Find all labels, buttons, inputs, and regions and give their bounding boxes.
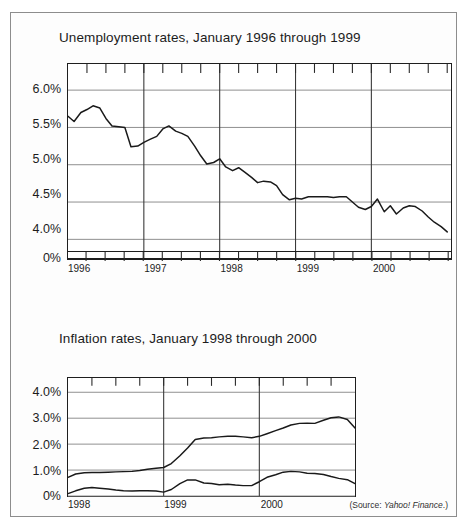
x-tick-label: 1998	[68, 499, 90, 510]
source-prefix: (Source:	[349, 500, 384, 510]
unemployment-x-axis-labels: 19961997199819992000	[67, 263, 452, 279]
y-tick-label: 4.0%	[33, 222, 62, 236]
x-tick-label: 1999	[297, 263, 319, 274]
inflation-x-axis-labels: 199819992000	[67, 499, 356, 515]
inflation-plot-area	[67, 377, 356, 497]
x-tick-label: 1999	[164, 499, 186, 510]
source-name: Yahoo! Finance	[384, 500, 443, 510]
x-tick-label: 2000	[261, 499, 283, 510]
y-tick-label: 5.0%	[33, 152, 62, 166]
unemployment-zero-axis	[67, 251, 452, 260]
y-tick-label: 1.0%	[33, 464, 62, 478]
y-tick-label: 5.5%	[33, 117, 62, 131]
inflation-chart-svg	[68, 378, 355, 496]
x-tick-label: 1996	[68, 263, 90, 274]
source-suffix: .)	[443, 500, 448, 510]
x-tick-label: 2000	[373, 263, 395, 274]
unemployment-plot-area	[67, 63, 452, 259]
y-tick-label: 4.0%	[33, 385, 62, 399]
figure-panel: Unemployment rates, January 1996 through…	[10, 12, 457, 517]
unemployment-chart-title: Unemployment rates, January 1996 through…	[59, 30, 361, 45]
unemployment-chart-svg	[68, 64, 451, 258]
x-tick-label: 1998	[220, 263, 242, 274]
y-tick-label: 0%	[43, 251, 61, 265]
y-tick-label: 2.0%	[33, 438, 62, 452]
y-tick-label: 0%	[43, 489, 61, 503]
inflation-chart-title: Inflation rates, January 1998 through 20…	[59, 331, 317, 346]
y-tick-label: 6.0%	[33, 82, 62, 96]
y-tick-label: 4.5%	[33, 187, 62, 201]
unemployment-zero-axis-ticks	[67, 252, 452, 261]
y-tick-label: 3.0%	[33, 411, 62, 425]
x-tick-label: 1997	[144, 263, 166, 274]
source-note: (Source: Yahoo! Finance.)	[349, 500, 448, 510]
